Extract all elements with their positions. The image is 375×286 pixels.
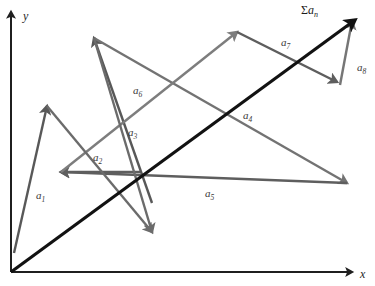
resultant-subscript: n (314, 10, 318, 19)
y-axis-label: y (23, 10, 28, 22)
vector-a3 (94, 38, 152, 203)
vector-label-sub-a7: 7 (287, 42, 291, 51)
vector-label-sub-a6: 6 (139, 90, 143, 99)
vector-label-a5: a5 (205, 188, 214, 202)
vector-label-a1: a1 (36, 190, 45, 204)
vector-label-sub-a8: 8 (363, 67, 367, 76)
vector-label-a7: a7 (281, 37, 290, 51)
x-axis-label: x (360, 268, 365, 280)
vector-diagram-figure: y x Σan a1a2a3a4a5a6a7a8 (0, 0, 375, 286)
resultant-vector-line (11, 20, 355, 272)
vector-label-a2: a2 (93, 152, 102, 166)
resultant-group (11, 20, 355, 272)
vector-label-a4: a4 (243, 110, 252, 124)
vector-a6 (61, 32, 237, 172)
vector-label-a3: a3 (128, 127, 137, 141)
vector-label-sub-a2: 2 (99, 157, 103, 166)
sigma-glyph: Σ (301, 3, 308, 17)
vector-a1 (14, 106, 47, 253)
vector-label-sub-a1: 1 (42, 195, 46, 204)
vectors-group (14, 21, 352, 253)
resultant-sum-label: Σan (301, 4, 318, 19)
vector-label-a6: a6 (133, 85, 142, 99)
vector-diagram-canvas (0, 0, 375, 286)
vector-label-sub-a4: 4 (249, 115, 253, 124)
vector-a1b (47, 106, 152, 232)
vector-label-sub-a5: 5 (211, 193, 215, 202)
vector-label-a8: a8 (357, 62, 366, 76)
vector-label-sub-a3: 3 (134, 132, 138, 141)
